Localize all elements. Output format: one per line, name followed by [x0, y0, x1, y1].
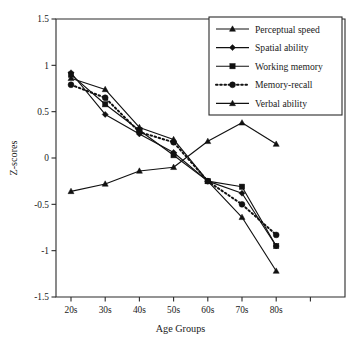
data-point-marker — [68, 82, 74, 88]
y-tick-label: 1 — [44, 61, 49, 71]
legend: Perceptual speedSpatial abilityWorking m… — [209, 17, 342, 115]
legend-item-label: Verbal ability — [255, 98, 307, 109]
x-tick-label: 40s — [133, 305, 146, 315]
legend-item-label: Memory-recall — [255, 79, 313, 90]
y-tick-label: -1.5 — [34, 292, 49, 302]
z-scores-line-chart: 1.510.50-0.5-1-1.5Z-scores20s30s40s50s60… — [0, 0, 355, 354]
data-point-marker — [171, 139, 177, 145]
data-point-marker — [273, 141, 279, 146]
legend-item-label: Perceptual speed — [255, 24, 320, 35]
x-axis: 20s30s40s50s60s70s80sAge Groups — [64, 297, 310, 334]
data-point-marker — [205, 178, 211, 184]
data-point-marker — [205, 138, 211, 143]
data-point-marker — [273, 232, 279, 238]
y-tick-label: 1.5 — [37, 14, 49, 24]
y-tick-label: 0.5 — [37, 107, 49, 117]
x-tick-label: 60s — [201, 305, 214, 315]
x-tick-label: 20s — [64, 305, 77, 315]
data-point-marker — [230, 82, 236, 88]
legend-item-label: Spatial ability — [255, 42, 309, 53]
y-axis-title: Z-scores — [8, 140, 19, 175]
data-point-marker — [239, 184, 244, 189]
y-tick-label: -1 — [41, 246, 49, 256]
data-point-marker — [239, 120, 245, 125]
chart-canvas: 1.510.50-0.5-1-1.5Z-scores20s30s40s50s60… — [0, 0, 355, 354]
x-tick-label: 70s — [235, 305, 248, 315]
data-point-marker — [171, 164, 177, 169]
y-tick-label: 0 — [44, 153, 49, 163]
data-point-marker — [239, 201, 245, 207]
data-point-marker — [103, 102, 108, 107]
y-tick-label: -0.5 — [34, 200, 49, 210]
data-point-marker — [274, 243, 279, 248]
x-axis-title: Age Groups — [156, 323, 206, 334]
data-point-marker — [68, 72, 73, 77]
legend-item-label: Working memory — [255, 61, 323, 72]
data-point-marker — [171, 153, 176, 158]
x-tick-label: 50s — [167, 305, 180, 315]
data-point-marker — [136, 129, 142, 135]
y-axis: 1.510.50-0.5-1-1.5Z-scores — [8, 14, 56, 302]
data-point-marker — [102, 95, 108, 101]
x-tick-label: 80s — [270, 305, 283, 315]
x-tick-label: 30s — [99, 305, 112, 315]
data-point-marker — [230, 64, 235, 69]
